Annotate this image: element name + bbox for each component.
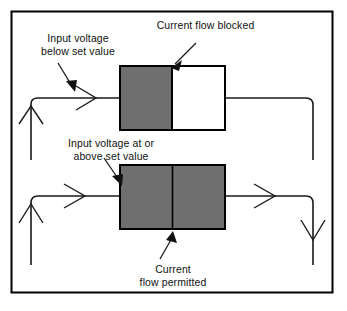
leader-line-permitted (160, 238, 172, 259)
leader-line-blocked (175, 43, 196, 64)
permitted-circuit (19, 158, 325, 265)
wire-bottom-left (31, 196, 120, 265)
label-input-voltage-below: Input voltage below set value (19, 32, 137, 57)
label-current-flow-permitted: Current flow permitted (112, 263, 234, 288)
leader-arrowhead-permitted (166, 231, 177, 243)
label-current-flow-blocked: Current flow blocked (138, 19, 273, 32)
leader-arrowhead-input-above (112, 174, 123, 186)
block-top-right-half (172, 66, 225, 130)
wire-top-right (225, 98, 313, 160)
figure-container: Input voltage below set value Current fl… (0, 0, 347, 311)
block-top-left-half (120, 66, 172, 130)
label-input-voltage-above: Input voltage at or above set value (44, 137, 178, 162)
leader-arrowhead-input-below (66, 80, 77, 92)
wire-bottom-right (225, 196, 313, 265)
